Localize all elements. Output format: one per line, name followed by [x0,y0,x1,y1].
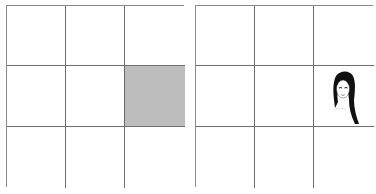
left-cell-r3c1 [7,127,66,188]
right-cell-r2c1 [196,66,255,127]
right-cell-r2c2 [255,66,314,127]
left-cell-r3c2 [66,127,125,188]
right-grid [195,5,373,187]
right-cell-r3c2 [255,127,314,188]
right-cell-r2c3 [314,66,374,127]
right-cell-r1c1 [196,6,255,66]
left-cell-r2c1 [7,66,66,127]
right-cell-r3c3 [314,127,374,188]
left-grid [6,5,184,187]
left-cell-r2c3-shaded [125,66,185,127]
left-cell-r2c2 [66,66,125,127]
right-cell-r3c1 [196,127,255,188]
right-cell-r1c2 [255,6,314,66]
left-cell-r1c3 [125,6,185,66]
woman-face-icon [326,70,360,126]
left-cell-r1c2 [66,6,125,66]
left-cell-r1c1 [7,6,66,66]
left-cell-r3c3 [125,127,185,188]
right-cell-r1c3 [314,6,374,66]
